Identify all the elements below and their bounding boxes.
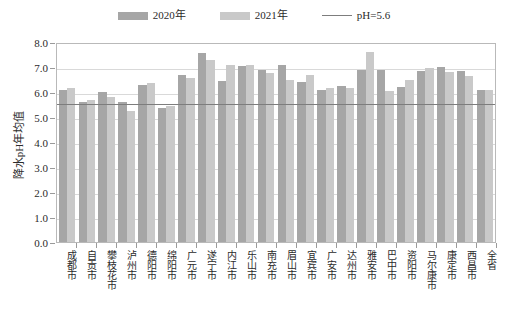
bar-group bbox=[117, 44, 137, 242]
y-tickmark bbox=[50, 143, 55, 144]
bar-2021年-马尔康市[interactable] bbox=[425, 68, 433, 242]
y-axis: 降水pH年均值 8.07.06.05.04.03.02.01.00.0 bbox=[0, 43, 54, 243]
bar-group bbox=[97, 44, 117, 242]
y-tick-label: 8.0 bbox=[34, 38, 48, 49]
bar-2021年-泸州市[interactable] bbox=[127, 111, 135, 242]
y-tickmark bbox=[50, 118, 55, 119]
x-tickmark bbox=[336, 243, 356, 248]
y-tick-label: 0.0 bbox=[34, 238, 48, 249]
x-axis-label-乐山市: 乐山市 bbox=[236, 250, 256, 290]
x-axis-label-广安市: 广安市 bbox=[316, 250, 336, 290]
bar-2021年-巴中市[interactable] bbox=[385, 91, 393, 242]
y-tick-label: 6.0 bbox=[34, 88, 48, 99]
y-tick-label: 7.0 bbox=[34, 63, 48, 74]
bar-2020年-西昌市[interactable] bbox=[457, 71, 465, 242]
bar-2020年-攀枝花市[interactable] bbox=[98, 92, 106, 242]
bar-2021年-内江市[interactable] bbox=[226, 65, 234, 243]
bar-group bbox=[376, 44, 396, 242]
x-tickmark bbox=[436, 243, 456, 248]
bar-2021年-雅安市[interactable] bbox=[366, 52, 374, 242]
bar-group bbox=[77, 44, 97, 242]
bar-group bbox=[455, 44, 475, 242]
legend-swatch-2021 bbox=[220, 12, 250, 20]
bar-2020年-资阳市[interactable] bbox=[397, 87, 405, 242]
x-tickmark bbox=[76, 243, 96, 248]
x-axis-label-眉山市: 眉山市 bbox=[276, 250, 296, 290]
legend-item-2[interactable]: 2021年 bbox=[220, 10, 288, 21]
bar-2021年-达州市[interactable] bbox=[346, 88, 354, 242]
bar-2021年-自贡市[interactable] bbox=[87, 100, 95, 243]
legend-item-1[interactable]: 2020年 bbox=[118, 10, 186, 21]
x-axis-label-攀枝花市: 攀枝花市 bbox=[96, 250, 116, 290]
x-tickmark bbox=[396, 243, 416, 248]
bar-2021年-德阳市[interactable] bbox=[147, 83, 155, 242]
legend-label: 2020年 bbox=[153, 10, 186, 21]
x-axis-label-泸州市: 泸州市 bbox=[116, 250, 136, 290]
bar-2021年-全省[interactable] bbox=[485, 90, 493, 243]
y-tickmark bbox=[50, 93, 55, 94]
bar-2021年-宜宾市[interactable] bbox=[306, 75, 314, 243]
precipitation-ph-bar-chart: 2020年2021年pH=5.6 降水pH年均值 8.07.06.05.04.0… bbox=[0, 0, 508, 317]
bar-2021年-康定市[interactable] bbox=[445, 72, 453, 242]
bar-2021年-成都市[interactable] bbox=[67, 88, 75, 242]
bar-2020年-泸州市[interactable] bbox=[118, 102, 126, 242]
ph-reference-line bbox=[57, 104, 495, 105]
bar-2020年-广元市[interactable] bbox=[178, 75, 186, 243]
bar-2020年-自贡市[interactable] bbox=[79, 102, 87, 242]
x-tickmark bbox=[56, 243, 76, 248]
bar-2021年-广元市[interactable] bbox=[186, 78, 194, 242]
x-axis-label-绵阳市: 绵阳市 bbox=[156, 250, 176, 290]
bar-2020年-全省[interactable] bbox=[477, 90, 485, 243]
y-tickmark bbox=[50, 68, 55, 69]
y-tickmark bbox=[50, 43, 55, 44]
bar-2020年-南充市[interactable] bbox=[258, 70, 266, 243]
bar-2020年-康定市[interactable] bbox=[437, 67, 445, 242]
bar-group bbox=[435, 44, 455, 242]
plot-area bbox=[56, 43, 496, 243]
bar-2020年-广安市[interactable] bbox=[317, 90, 325, 243]
legend-label: 2021年 bbox=[255, 10, 288, 21]
x-tickmark bbox=[116, 243, 136, 248]
legend-swatch-2020 bbox=[118, 12, 148, 20]
x-axis-label-达州市: 达州市 bbox=[336, 250, 356, 290]
bar-2020年-眉山市[interactable] bbox=[278, 65, 286, 243]
bar-2020年-巴中市[interactable] bbox=[377, 70, 385, 243]
bar-2021年-遂宁市[interactable] bbox=[206, 60, 214, 243]
x-axis-label-内江市: 内江市 bbox=[216, 250, 236, 290]
x-tickmark bbox=[316, 243, 336, 248]
bar-group bbox=[276, 44, 296, 242]
bar-2021年-攀枝花市[interactable] bbox=[107, 97, 115, 242]
x-tickmark bbox=[216, 243, 236, 248]
bar-2020年-马尔康市[interactable] bbox=[417, 71, 425, 242]
legend-item-3[interactable]: pH=5.6 bbox=[322, 10, 390, 21]
x-tickmark bbox=[376, 243, 396, 248]
bar-2020年-绵阳市[interactable] bbox=[158, 108, 166, 242]
bar-2021年-广安市[interactable] bbox=[326, 88, 334, 242]
x-axis-tickmarks bbox=[56, 243, 496, 248]
bar-2021年-南充市[interactable] bbox=[266, 73, 274, 242]
bar-2020年-成都市[interactable] bbox=[59, 90, 67, 243]
x-axis-label-南充市: 南充市 bbox=[256, 250, 276, 290]
y-tick-label: 1.0 bbox=[34, 213, 48, 224]
x-tickmark bbox=[256, 243, 276, 248]
bar-group bbox=[296, 44, 316, 242]
bar-2020年-遂宁市[interactable] bbox=[198, 53, 206, 242]
x-tickmark bbox=[196, 243, 216, 248]
bar-2020年-宜宾市[interactable] bbox=[297, 82, 305, 242]
bar-2020年-德阳市[interactable] bbox=[138, 85, 146, 243]
bar-group bbox=[256, 44, 276, 242]
bar-2021年-绵阳市[interactable] bbox=[166, 106, 174, 242]
chart-legend: 2020年2021年pH=5.6 bbox=[0, 10, 508, 21]
x-tickmark bbox=[356, 243, 376, 248]
bar-2020年-雅安市[interactable] bbox=[357, 70, 365, 243]
x-tickmark bbox=[176, 243, 196, 248]
bar-2021年-西昌市[interactable] bbox=[465, 76, 473, 242]
bar-2021年-乐山市[interactable] bbox=[246, 65, 254, 243]
x-axis-label-宜宾市: 宜宾市 bbox=[296, 250, 316, 290]
bar-2020年-达州市[interactable] bbox=[337, 86, 345, 242]
x-axis-label-雅安市: 雅安市 bbox=[356, 250, 376, 290]
x-axis-label-成都市: 成都市 bbox=[56, 250, 76, 290]
x-tickmark bbox=[136, 243, 156, 248]
bar-2020年-乐山市[interactable] bbox=[238, 66, 246, 242]
y-tick-label: 5.0 bbox=[34, 113, 48, 124]
